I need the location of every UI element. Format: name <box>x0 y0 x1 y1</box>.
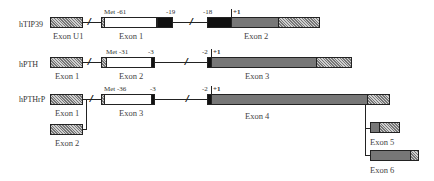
exon-label: Exon 1 <box>119 31 143 41</box>
intron-line <box>155 62 207 63</box>
exon-label: Exon 3 <box>245 71 269 81</box>
gene-label: hPTHrP <box>19 95 45 104</box>
exon-2-pro <box>207 17 232 28</box>
exon-4-mature <box>211 94 368 105</box>
exon-6-mature <box>370 150 411 161</box>
exon-label: Exon 2 <box>55 138 79 148</box>
end-marker: -3 <box>150 85 156 93</box>
exon-4-utr <box>367 94 390 105</box>
exon-label: Exon 1 <box>55 108 79 118</box>
exon-6-utr <box>410 150 419 161</box>
exon-1-box <box>50 94 83 105</box>
exon-1-utr <box>101 17 105 28</box>
plus-one-tick <box>231 9 232 17</box>
intron-line <box>155 99 207 100</box>
exon-label: Exon 3 <box>119 108 143 118</box>
plus-one-marker: +1 <box>233 8 241 16</box>
exon-5-utr <box>379 122 400 133</box>
exon-2-utr <box>101 57 107 68</box>
intron-line <box>83 62 101 63</box>
splice-connector <box>83 129 87 130</box>
exon-1-box <box>101 17 157 28</box>
exon-2-mature <box>231 17 279 28</box>
gene-label: hTIP39 <box>19 20 43 29</box>
gene-label: hPTH <box>19 60 38 69</box>
splice-connector <box>365 105 366 155</box>
plus-one-tick <box>211 49 212 57</box>
exon-3-mature <box>211 57 317 68</box>
exon-label: Exon 4 <box>245 111 269 121</box>
met-marker: Met -31 <box>106 48 128 56</box>
plus-one-tick <box>211 86 212 94</box>
met-marker: Met -36 <box>104 85 126 93</box>
plus-one-marker: +1 <box>213 85 221 93</box>
plus-one-marker: +1 <box>213 48 221 56</box>
exon-1-pro <box>157 17 173 28</box>
end-marker: -19 <box>166 8 175 16</box>
splice-connector <box>86 99 87 130</box>
exon-label: Exon U1 <box>53 31 83 41</box>
exon-3-utr <box>316 57 352 68</box>
exon-2-box <box>50 124 83 135</box>
exon-3-box <box>101 94 152 105</box>
exon-3-utr <box>101 94 105 105</box>
exon-label: Exon 2 <box>119 71 143 81</box>
intron-line <box>173 22 207 23</box>
end-marker: -3 <box>148 48 154 56</box>
exon-label: Exon 6 <box>370 165 394 175</box>
exon-label: Exon 5 <box>370 137 394 147</box>
exon-label: Exon 1 <box>55 71 79 81</box>
exon-label: Exon 2 <box>244 31 268 41</box>
start-marker: -2 <box>202 85 208 93</box>
intron-line <box>83 22 101 23</box>
exon-1-box <box>50 57 83 68</box>
start-marker: -18 <box>203 8 212 16</box>
exon-2-utr <box>278 17 320 28</box>
met-marker: Met -61 <box>104 8 126 16</box>
start-marker: -2 <box>202 48 208 56</box>
exon-u1-box <box>50 17 83 28</box>
exon-2-box <box>101 57 152 68</box>
